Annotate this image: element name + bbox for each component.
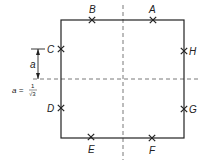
point-label-f: F [149, 145, 156, 156]
arrowhead-down-icon [36, 73, 40, 79]
cross-marker-e [88, 134, 94, 140]
formula: a = 1 √3 [12, 83, 37, 97]
square-outline [61, 20, 184, 138]
point-label-c: C [47, 44, 55, 55]
point-label-g: G [189, 104, 197, 115]
point-label-b: B [89, 4, 96, 15]
arrowhead-up-icon [36, 49, 40, 55]
dimension-label: a [30, 59, 36, 70]
formula-lhs: a = [12, 86, 24, 95]
point-label-d: D [47, 103, 54, 114]
square-diagram: BACHDGEF a a = 1 √3 [0, 0, 211, 165]
dimension-marker-a: a [30, 49, 45, 79]
formula-denominator: √3 [29, 91, 36, 97]
point-label-a: A [148, 4, 156, 15]
point-label-e: E [88, 144, 95, 155]
formula-numerator: 1 [31, 83, 35, 89]
point-label-h: H [189, 46, 197, 57]
point-labels: BACHDGEF [47, 4, 197, 156]
